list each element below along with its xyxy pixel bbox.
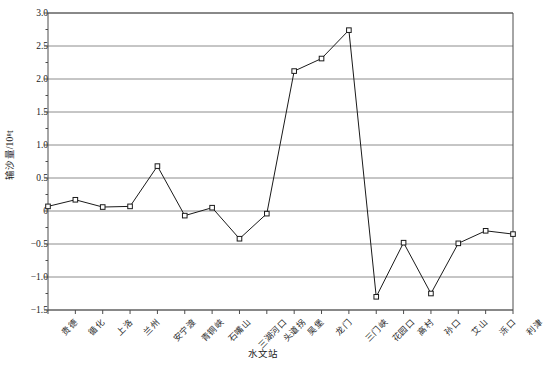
data-point-marker xyxy=(237,236,242,241)
data-point-marker xyxy=(319,56,324,61)
data-point-marker xyxy=(155,164,160,169)
data-point-marker xyxy=(292,69,297,74)
data-point-marker xyxy=(374,295,379,300)
data-point-marker xyxy=(456,241,461,246)
x-axis-ticks xyxy=(48,310,513,314)
plot-frame xyxy=(48,13,513,310)
data-point-marker xyxy=(347,28,352,33)
data-point-marker xyxy=(483,229,488,234)
data-point-marker xyxy=(128,204,133,209)
data-point-marker xyxy=(429,291,434,296)
data-point-marker xyxy=(182,213,187,218)
data-point-marker xyxy=(210,205,215,210)
data-point-marker xyxy=(100,205,105,210)
data-point-marker xyxy=(73,197,78,202)
data-point-marker xyxy=(511,232,516,237)
series-line xyxy=(48,30,513,297)
x-tick-label: 利津 xyxy=(523,316,544,337)
series-markers xyxy=(46,28,516,299)
gridlines xyxy=(48,13,513,310)
data-point-marker xyxy=(265,211,270,216)
x-axis-title: 水文站 xyxy=(0,346,526,360)
data-point-marker xyxy=(46,204,51,209)
data-point-marker xyxy=(401,240,406,245)
